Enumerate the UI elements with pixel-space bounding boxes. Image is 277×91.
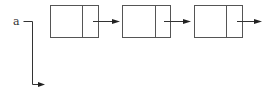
arrowhead-icon bbox=[183, 19, 191, 24]
linked-list-diagram: a bbox=[0, 0, 277, 91]
list-node-1 bbox=[51, 6, 99, 38]
node-box bbox=[51, 6, 99, 38]
arrowhead-icon bbox=[254, 19, 262, 24]
arrowhead-icon bbox=[112, 19, 120, 24]
node-box bbox=[123, 6, 171, 38]
list-node-3 bbox=[195, 6, 243, 38]
node-box bbox=[195, 6, 243, 38]
arrowhead-icon bbox=[38, 82, 45, 87]
list-node-2 bbox=[123, 6, 171, 38]
pointer-a-arrow bbox=[24, 22, 46, 88]
pointer-label-a: a bbox=[13, 15, 20, 28]
